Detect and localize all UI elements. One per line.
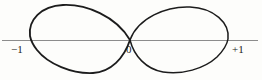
axis-label-plus-one: +1 [232, 44, 244, 55]
axis-label-origin: 0 [126, 44, 132, 55]
lemniscate-figure: −1 0 +1 [0, 0, 262, 80]
lemniscate-right-loop [130, 7, 228, 73]
axis-label-minus-one: −1 [11, 44, 23, 55]
lemniscate-svg [0, 0, 262, 80]
lemniscate-left-loop [30, 5, 130, 73]
